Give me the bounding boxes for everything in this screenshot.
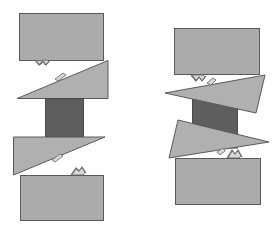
core-block (46, 99, 84, 138)
wedge-assembly-diagram (0, 0, 278, 235)
bottom-block (176, 159, 261, 205)
bottom-block (21, 176, 104, 221)
contact-spring-upper (191, 75, 216, 85)
tilted-assembly (165, 29, 269, 205)
aligned-assembly (14, 14, 109, 221)
contact-spring-lower (217, 148, 242, 158)
upper-wedge (17, 61, 108, 99)
top-block (175, 29, 260, 75)
contact-spring-lower (52, 154, 86, 175)
contact-spring-upper (35, 60, 66, 81)
top-block (20, 14, 104, 61)
